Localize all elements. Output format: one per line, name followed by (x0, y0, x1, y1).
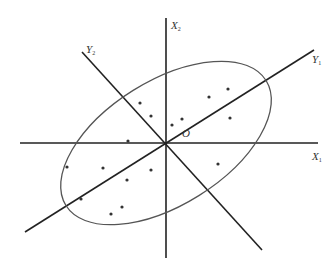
x2-label: X2 (171, 20, 181, 32)
data-point (207, 95, 210, 98)
y2-label: Y2 (86, 44, 95, 56)
y2-axis (82, 52, 262, 250)
data-point (149, 114, 152, 117)
data-point (109, 212, 112, 215)
data-point (125, 178, 128, 181)
origin-label: O (182, 128, 190, 139)
data-point (170, 123, 173, 126)
data-point (149, 168, 152, 171)
x1-label: X1 (312, 151, 322, 163)
data-point (180, 117, 183, 120)
data-point (65, 165, 68, 168)
data-points (65, 87, 231, 215)
data-point (120, 205, 123, 208)
data-point (226, 87, 229, 90)
diagram-canvas (0, 0, 336, 277)
y1-axis (25, 50, 314, 232)
data-point (228, 116, 231, 119)
y1-label: Y1 (312, 54, 321, 66)
data-point (79, 197, 82, 200)
data-point (138, 101, 141, 104)
data-point (126, 139, 129, 142)
data-point (101, 166, 104, 169)
data-point (216, 162, 219, 165)
